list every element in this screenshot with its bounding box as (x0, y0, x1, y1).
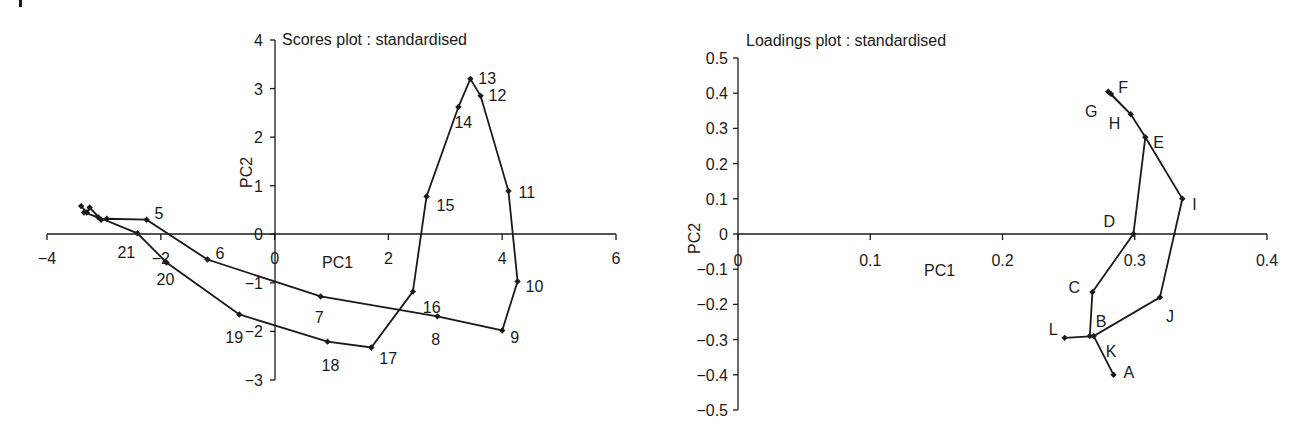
scores-plot: Scores plot : standardised PC1 PC2 −4−20… (38, 31, 621, 389)
loadings-x-tick-label: 0.3 (1124, 252, 1146, 269)
loadings-y-tick-label: 0.3 (706, 120, 728, 137)
data-point-label: 10 (526, 278, 544, 295)
loadings-y-tick-label: 0.2 (706, 156, 728, 173)
data-point-label: 8 (431, 331, 440, 348)
data-point-label: 5 (155, 205, 164, 222)
figure: Scores plot : standardised PC1 PC2 −4−20… (0, 0, 1314, 432)
data-point-marker (317, 293, 323, 299)
loadings-y-tick-label: 0.5 (706, 50, 728, 67)
loadings-x-axis-label: PC1 (924, 262, 955, 279)
loadings-x-tick-label: 0 (734, 252, 743, 269)
data-point-marker (505, 188, 511, 194)
scores-y-tick-label: 1 (254, 178, 263, 195)
scores-axes (47, 40, 616, 380)
loadings-plot: Loadings plot : standardised PC1 PC2 00.… (686, 32, 1278, 419)
data-point-marker (1110, 372, 1116, 378)
data-point-marker (455, 104, 461, 110)
scores-y-tick-label: 2 (254, 129, 263, 146)
scores-y-tick-label: 4 (254, 32, 263, 49)
data-point-label: J (1166, 308, 1174, 325)
loadings-x-tick-label: 0.4 (1256, 252, 1278, 269)
loadings-y-tick-label: −0.5 (696, 402, 728, 419)
loadings-y-tick-label: −0.2 (696, 296, 728, 313)
loadings-x-tick-label: 0.2 (991, 252, 1013, 269)
data-point-label: 21 (117, 244, 135, 261)
loadings-plot-title: Loadings plot : standardised (746, 32, 946, 49)
data-point-label: 11 (518, 184, 535, 201)
scores-y-axis-label: PC2 (238, 157, 255, 188)
scores-y-tick-label: −3 (245, 372, 263, 389)
scores-y-tick-label: 0 (254, 226, 263, 243)
data-point-label: K (1106, 343, 1117, 360)
scores-x-axis-label: PC1 (322, 254, 353, 271)
data-point-label: G (1085, 103, 1097, 120)
loadings-axes (733, 58, 1267, 410)
data-point-label: D (1103, 213, 1115, 230)
scores-x-tick-label: −4 (38, 250, 56, 267)
loadings-series-line (1065, 92, 1183, 375)
loadings-y-tick-label: 0.4 (706, 85, 728, 102)
data-point-label: 14 (454, 114, 472, 131)
loadings-x-tick-label: 0.1 (859, 252, 881, 269)
data-point-label: B (1096, 313, 1107, 330)
data-point-label: 18 (322, 357, 340, 374)
scores-y-tick-label: −2 (245, 323, 263, 340)
scores-y-tick-label: 3 (254, 81, 263, 98)
data-point-label: 20 (156, 271, 174, 288)
data-point-label: 16 (423, 299, 441, 316)
scores-plot-title: Scores plot : standardised (282, 31, 467, 48)
scores-x-tick-label: 4 (498, 250, 507, 267)
data-point-label: C (1068, 279, 1080, 296)
data-point-label: L (1049, 321, 1058, 338)
loadings-y-tick-label: 0.1 (706, 191, 728, 208)
data-point-label: 13 (478, 70, 496, 87)
data-point-label: 19 (225, 329, 243, 346)
data-point-marker (324, 338, 330, 344)
data-point-label: 9 (510, 329, 519, 346)
data-point-label: A (1124, 364, 1135, 381)
data-point-marker (499, 327, 505, 333)
data-point-label: 7 (315, 309, 324, 326)
loadings-y-axis-label: PC2 (686, 223, 703, 254)
data-point-label: 17 (379, 350, 397, 367)
data-point-label: 12 (489, 87, 507, 104)
data-point-label: 15 (437, 197, 455, 214)
data-point-label: H (1109, 115, 1121, 132)
data-point-label: I (1192, 196, 1196, 213)
loadings-y-tick-label: −0.1 (696, 261, 728, 278)
scores-x-tick-label: 6 (612, 250, 621, 267)
data-point-label: E (1153, 134, 1164, 151)
data-point-marker (514, 278, 520, 284)
scores-x-tick-label: 2 (384, 250, 393, 267)
data-point-label: F (1118, 79, 1128, 96)
loadings-y-tick-label: −0.3 (696, 332, 728, 349)
scores-x-tick-label: 0 (270, 250, 279, 267)
data-point-marker (423, 193, 429, 199)
loadings-y-tick-label: 0 (719, 226, 728, 243)
data-point-label: 6 (215, 245, 224, 262)
data-point-marker (1061, 335, 1067, 341)
loadings-y-tick-label: −0.4 (696, 367, 728, 384)
